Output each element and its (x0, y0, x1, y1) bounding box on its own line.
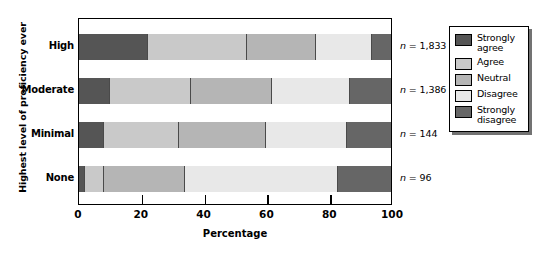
x-axis-tick-label: 20 (133, 208, 148, 220)
bar-segment (104, 166, 185, 192)
legend-swatch-icon (455, 90, 472, 102)
bar-row (79, 78, 391, 104)
x-axis-tick-label: 40 (196, 208, 211, 220)
bar-row (79, 34, 391, 60)
n-annotation: n = 1,386 (400, 84, 446, 95)
legend-label: Strongly agree (477, 33, 524, 54)
x-axis-tick-label: 60 (259, 208, 274, 220)
legend-item: Neutral (455, 73, 524, 86)
bar-segment (350, 78, 391, 104)
x-axis-tick-label: 80 (322, 208, 337, 220)
legend-swatch-icon (455, 58, 472, 70)
bar-segment (185, 166, 338, 192)
bar-segment (79, 78, 110, 104)
legend-item: Agree (455, 57, 524, 70)
bar-segment (372, 34, 391, 60)
x-axis-tick (205, 195, 206, 204)
legend-item: Disagree (455, 89, 524, 102)
bar-segment (338, 166, 391, 192)
x-axis-tick-label: 0 (74, 208, 81, 220)
legend-item: Strongly disagree (455, 105, 524, 126)
category-label-high: High (6, 41, 74, 51)
bar-row (79, 166, 391, 192)
bar-segment (316, 34, 372, 60)
bar-segment (266, 122, 347, 148)
category-label-moderate: Moderate (6, 85, 74, 95)
bar-segment (110, 78, 191, 104)
bar-segment (272, 78, 350, 104)
legend-swatch-icon (455, 74, 472, 86)
x-axis-tick (330, 195, 331, 204)
category-label-minimal: Minimal (6, 129, 74, 139)
bar-segment (179, 122, 266, 148)
bar-segment (79, 122, 104, 148)
n-annotation: n = 144 (400, 128, 437, 139)
bar-segment (191, 78, 272, 104)
x-axis-tick (142, 195, 143, 204)
bar-segment (79, 34, 148, 60)
plot-area (78, 18, 392, 205)
bar-segment (148, 34, 248, 60)
legend-label: Disagree (477, 89, 518, 99)
bar-segment (247, 34, 316, 60)
legend-item: Strongly agree (455, 33, 524, 54)
x-axis-title: Percentage (78, 228, 392, 239)
legend-label: Strongly disagree (477, 105, 524, 126)
category-label-none: None (6, 173, 74, 183)
bar-segment (104, 122, 179, 148)
category-label-column: HighModerateMinimalNone (0, 0, 74, 205)
legend-label: Agree (477, 57, 504, 67)
bar-segment (347, 122, 391, 148)
legend-swatch-icon (455, 106, 472, 118)
x-axis-tick (267, 195, 268, 204)
bar-segment (85, 166, 104, 192)
chart-legend: Strongly agreeAgreeNeutralDisagreeStrong… (449, 26, 529, 132)
bar-row (79, 122, 391, 148)
x-axis-tick-label: 100 (381, 208, 403, 220)
stacked-bar-chart: Highest level of proficiency ever HighMo… (0, 0, 536, 255)
n-annotation: n = 1,833 (400, 40, 446, 51)
legend-swatch-icon (455, 34, 472, 46)
legend-label: Neutral (477, 73, 511, 83)
n-annotation: n = 96 (400, 172, 432, 183)
